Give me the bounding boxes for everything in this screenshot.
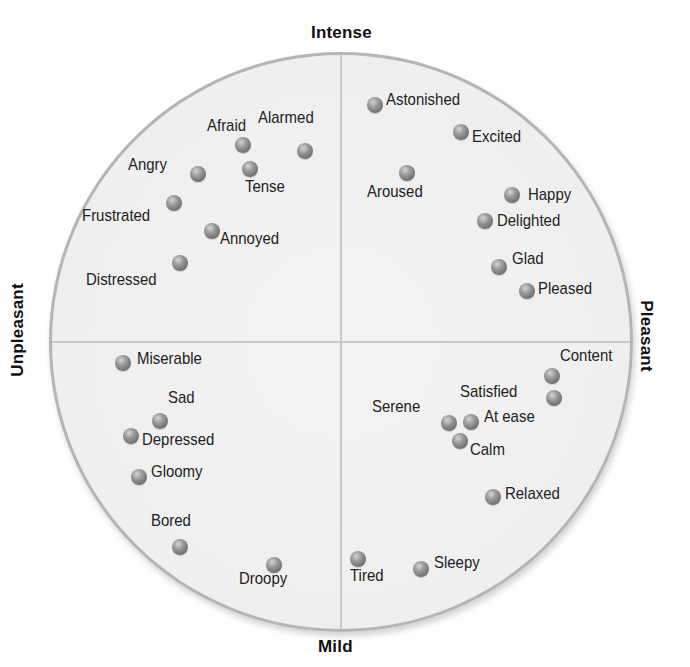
emotion-label-distressed: Distressed [86, 270, 157, 290]
emotion-dot-gloomy [131, 469, 147, 485]
emotion-dot-afraid [235, 137, 251, 153]
emotion-dot-depressed [123, 428, 139, 444]
emotion-dot-distressed [172, 255, 188, 271]
emotion-label-tired: Tired [350, 566, 384, 586]
axis-label-intense: Intense [311, 23, 372, 43]
emotion-label-tense: Tense [245, 177, 285, 197]
emotion-label-frustrated: Frustrated [82, 206, 150, 226]
axis-label-pleasant: Pleasant [636, 291, 656, 381]
emotion-dot-glad [491, 259, 507, 275]
emotion-label-annoyed: Annoyed [220, 229, 279, 249]
emotion-label-content: Content [560, 346, 612, 366]
emotion-dot-at-ease [463, 414, 479, 430]
emotion-label-delighted: Delighted [497, 211, 560, 231]
emotion-label-gloomy: Gloomy [151, 462, 203, 482]
emotion-dot-content [544, 368, 560, 384]
emotion-label-depressed: Depressed [142, 430, 214, 450]
emotion-dot-alarmed [297, 143, 313, 159]
emotion-dot-frustrated [166, 195, 182, 211]
emotion-dot-tired [350, 551, 366, 567]
emotion-label-sad: Sad [168, 388, 195, 408]
axis-label-mild: Mild [318, 637, 353, 657]
emotion-dot-excited [453, 124, 469, 140]
emotion-label-alarmed: Alarmed [258, 108, 314, 128]
emotion-label-at-ease: At ease [484, 407, 535, 427]
emotion-label-astonished: Astonished [386, 90, 460, 110]
emotion-label-droopy: Droopy [239, 569, 287, 589]
emotion-dot-annoyed [204, 223, 220, 239]
emotion-label-excited: Excited [472, 127, 521, 147]
emotion-dot-calm [452, 433, 468, 449]
emotion-label-miserable: Miserable [137, 349, 202, 369]
emotion-dot-sleepy [413, 561, 429, 577]
emotion-dot-miserable [115, 355, 131, 371]
emotion-dot-bored [172, 539, 188, 555]
emotion-dot-happy [504, 187, 520, 203]
emotion-label-satisfied: Satisfied [460, 382, 517, 402]
emotion-dot-satisfied [546, 390, 562, 406]
emotion-label-bored: Bored [151, 511, 191, 531]
emotion-dot-tense [242, 161, 258, 177]
emotion-dot-serene [441, 415, 457, 431]
emotion-label-relaxed: Relaxed [505, 484, 560, 504]
emotion-label-glad: Glad [512, 249, 544, 269]
emotion-label-calm: Calm [470, 440, 505, 460]
horizontal-axis-line [52, 341, 630, 343]
emotion-label-pleased: Pleased [538, 279, 592, 299]
emotion-dot-astonished [367, 97, 383, 113]
emotion-dot-aroused [399, 165, 415, 181]
emotion-label-serene: Serene [372, 397, 420, 417]
emotion-dot-angry [190, 166, 206, 182]
circumplex-diagram: Intense Mild Unpleasant Pleasant AfraidA… [0, 0, 690, 667]
emotion-label-sleepy: Sleepy [434, 553, 480, 573]
emotion-label-angry: Angry [128, 155, 167, 175]
emotion-label-happy: Happy [528, 185, 571, 205]
emotion-dot-sad [152, 413, 168, 429]
emotion-label-afraid: Afraid [207, 116, 246, 136]
emotion-dot-pleased [519, 283, 535, 299]
emotion-dot-relaxed [485, 489, 501, 505]
emotion-label-aroused: Aroused [367, 182, 423, 202]
emotion-dot-delighted [477, 213, 493, 229]
axis-label-unpleasant: Unpleasant [8, 282, 28, 378]
